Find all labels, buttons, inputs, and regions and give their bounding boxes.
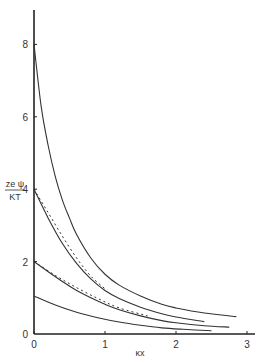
y-axis-label-denominator: KT [9, 192, 21, 202]
series-line [34, 189, 105, 289]
y-tick-label: 8 [22, 39, 28, 50]
y-tick-label: 0 [22, 329, 28, 340]
y-axis-label-numerator: ze ψ [6, 179, 24, 189]
series-line [34, 189, 204, 321]
axes [34, 10, 255, 334]
x-axis-label: κx [136, 348, 146, 358]
x-tick-label: 2 [173, 339, 179, 350]
y-tick-label: 6 [22, 112, 28, 123]
series-line [34, 44, 236, 316]
series-line [34, 262, 229, 328]
series-group [34, 44, 236, 330]
x-tick-label: 3 [244, 339, 250, 350]
x-tick-label: 1 [102, 339, 108, 350]
ticks: 012302468 [22, 39, 250, 350]
series-line [34, 296, 212, 331]
y-tick-label: 2 [22, 257, 28, 268]
potential-decay-chart: 012302468 ze ψ KT κx [0, 0, 263, 361]
series-line [34, 262, 148, 316]
x-tick-label: 0 [31, 339, 37, 350]
